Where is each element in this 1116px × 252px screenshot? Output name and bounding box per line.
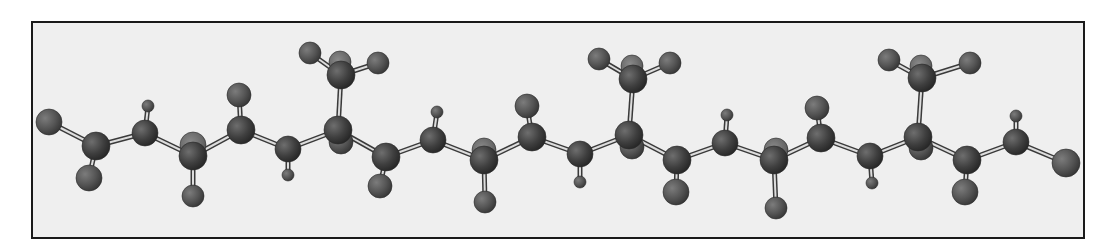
atom <box>588 48 610 70</box>
atom <box>470 146 498 174</box>
atom <box>82 132 110 160</box>
atom <box>132 120 158 146</box>
hydrogen-atom <box>431 106 443 118</box>
atom <box>904 123 932 151</box>
atom <box>760 146 788 174</box>
hydrogen-atom <box>574 176 586 188</box>
atom <box>275 136 301 162</box>
atom <box>179 142 207 170</box>
atom <box>324 116 352 144</box>
atom <box>615 121 643 149</box>
atom <box>765 197 787 219</box>
atom <box>567 141 593 167</box>
molecule-figure <box>0 0 1116 252</box>
hydrogen-atom <box>1010 110 1022 122</box>
atom <box>1003 129 1029 155</box>
molecule-canvas <box>0 0 1116 252</box>
atom <box>807 124 835 152</box>
atom <box>76 165 102 191</box>
atom <box>515 94 539 118</box>
atom <box>908 64 936 92</box>
atom <box>182 185 204 207</box>
atom <box>367 52 389 74</box>
hydrogen-atom <box>866 177 878 189</box>
atom <box>959 52 981 74</box>
atom <box>1052 149 1080 177</box>
atom <box>372 143 400 171</box>
atom <box>952 179 978 205</box>
atom <box>518 123 546 151</box>
atom <box>227 83 251 107</box>
atom <box>420 127 446 153</box>
atom <box>659 52 681 74</box>
atom <box>712 130 738 156</box>
hydrogen-atom <box>721 109 733 121</box>
atom <box>857 143 883 169</box>
atom <box>327 61 355 89</box>
hydrogen-atom <box>282 169 294 181</box>
atom <box>227 116 255 144</box>
atom <box>805 96 829 120</box>
atom <box>663 146 691 174</box>
atom <box>663 179 689 205</box>
hydrogen-atom <box>142 100 154 112</box>
atom <box>368 174 392 198</box>
atom <box>474 191 496 213</box>
atom <box>299 42 321 64</box>
atom <box>878 49 900 71</box>
atom <box>36 109 62 135</box>
atom <box>953 146 981 174</box>
atom <box>619 65 647 93</box>
